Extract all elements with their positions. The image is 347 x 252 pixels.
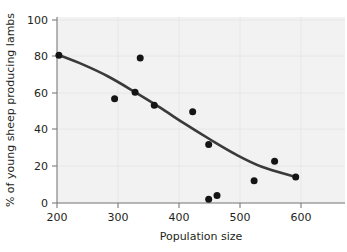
data-point	[132, 89, 139, 96]
y-axis-tick-labels: 0 20 40 60 80 100	[27, 14, 48, 210]
y-axis-title: % of young sheep producing lambs	[4, 13, 17, 207]
y-tick-label-100: 100	[27, 14, 48, 27]
data-point	[151, 102, 158, 109]
plot-background	[57, 17, 345, 203]
data-point	[251, 177, 258, 184]
data-point	[189, 108, 196, 115]
data-point	[205, 141, 212, 148]
x-tick-label-600: 600	[291, 211, 312, 224]
scatter-plot-svg: 0 20 40 60 80 100 200 300 400 500 600 Po…	[0, 0, 347, 252]
x-tick-label-400: 400	[169, 211, 190, 224]
data-point	[111, 95, 118, 102]
x-tick-label-500: 500	[230, 211, 251, 224]
y-tick-label-60: 60	[34, 87, 48, 100]
data-point	[205, 196, 212, 203]
data-point	[55, 52, 62, 59]
chart-figure: 0 20 40 60 80 100 200 300 400 500 600 Po…	[0, 0, 347, 252]
y-axis-ticks	[52, 20, 57, 203]
x-tick-label-200: 200	[47, 211, 68, 224]
y-tick-label-0: 0	[41, 197, 48, 210]
data-point	[271, 158, 278, 165]
y-tick-label-20: 20	[34, 160, 48, 173]
data-point	[292, 173, 299, 180]
x-axis-tick-labels: 200 300 400 500 600	[47, 211, 312, 224]
y-tick-label-80: 80	[34, 50, 48, 63]
y-tick-label-40: 40	[34, 123, 48, 136]
x-axis-title: Population size	[160, 230, 243, 243]
x-axis-ticks	[57, 203, 301, 208]
data-point	[137, 54, 144, 61]
data-point	[214, 192, 221, 199]
x-tick-label-300: 300	[108, 211, 129, 224]
